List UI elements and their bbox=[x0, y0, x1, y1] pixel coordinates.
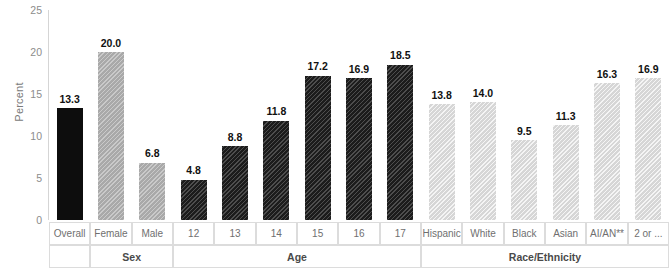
category-cell-asian: Asian bbox=[545, 222, 586, 245]
bar-slot: 16.3 bbox=[586, 10, 627, 220]
bar-value-label: 13.8 bbox=[431, 90, 451, 101]
bar-hispanic[interactable] bbox=[429, 104, 455, 220]
bar-slot: 14.0 bbox=[462, 10, 503, 220]
category-cell-12: 12 bbox=[173, 222, 214, 245]
bar-black[interactable] bbox=[511, 140, 537, 220]
bar-2-or-[interactable] bbox=[635, 78, 661, 220]
plot-area: 13.320.06.84.88.811.817.216.918.513.814.… bbox=[49, 10, 669, 220]
bar-asian[interactable] bbox=[553, 125, 579, 220]
bar-16[interactable] bbox=[346, 78, 372, 220]
bar-value-label: 8.8 bbox=[228, 132, 243, 143]
bar-value-label: 16.9 bbox=[638, 64, 658, 75]
bar-slot: 18.5 bbox=[380, 10, 421, 220]
y-axis-tick-10: 10 bbox=[12, 131, 42, 142]
y-axis-tick-25: 25 bbox=[12, 5, 42, 16]
category-cell-white: White bbox=[462, 222, 503, 245]
bar-value-label: 11.3 bbox=[556, 111, 576, 122]
bar-value-label: 17.2 bbox=[307, 61, 327, 72]
bar-value-label: 4.8 bbox=[186, 165, 201, 176]
bar-17[interactable] bbox=[387, 65, 413, 220]
bar-value-label: 14.0 bbox=[473, 88, 493, 99]
bar-14[interactable] bbox=[263, 121, 289, 220]
bar-value-label: 16.9 bbox=[349, 64, 369, 75]
bar-chart: Percent 0510152025 13.320.06.84.88.811.8… bbox=[0, 0, 669, 274]
bar-slot: 16.9 bbox=[338, 10, 379, 220]
bar-slot: 17.2 bbox=[297, 10, 338, 220]
category-cell-13: 13 bbox=[214, 222, 255, 245]
category-label-table: OverallFemaleMale121314151617HispanicWhi… bbox=[49, 222, 669, 270]
category-cell-hispanic: Hispanic bbox=[421, 222, 462, 245]
bar-value-label: 13.3 bbox=[59, 94, 79, 105]
category-cell-17: 17 bbox=[380, 222, 421, 245]
group-header-sex: Sex bbox=[90, 245, 173, 268]
bar-slot: 4.8 bbox=[173, 10, 214, 220]
y-axis-tick-15: 15 bbox=[12, 89, 42, 100]
bar-slot: 13.3 bbox=[49, 10, 90, 220]
category-cell-2-or-: 2 or ... bbox=[628, 222, 669, 245]
bar-slot: 20.0 bbox=[90, 10, 131, 220]
bar-value-label: 16.3 bbox=[597, 69, 617, 80]
bar-slot: 6.8 bbox=[132, 10, 173, 220]
bar-male[interactable] bbox=[139, 163, 165, 220]
bar-value-label: 9.5 bbox=[517, 126, 532, 137]
y-axis-tick-20: 20 bbox=[12, 47, 42, 58]
category-cell-male: Male bbox=[132, 222, 173, 245]
category-cell-female: Female bbox=[90, 222, 131, 245]
category-cell-15: 15 bbox=[297, 222, 338, 245]
bar-ai-an-[interactable] bbox=[594, 83, 620, 220]
category-cell-14: 14 bbox=[256, 222, 297, 245]
group-header-race-ethnicity: Race/Ethnicity bbox=[421, 245, 669, 268]
bar-value-label: 11.8 bbox=[266, 106, 286, 117]
bar-value-label: 18.5 bbox=[390, 50, 410, 61]
bar-female[interactable] bbox=[98, 52, 124, 220]
bar-slot: 9.5 bbox=[504, 10, 545, 220]
group-header-age: Age bbox=[173, 245, 421, 268]
bar-white[interactable] bbox=[470, 102, 496, 220]
y-axis-tick-5: 5 bbox=[12, 173, 42, 184]
bar-12[interactable] bbox=[181, 180, 207, 220]
category-cell-ai-an-: AI/AN** bbox=[586, 222, 627, 245]
bar-slot: 13.8 bbox=[421, 10, 462, 220]
bar-15[interactable] bbox=[305, 76, 331, 220]
category-cell-overall: Overall bbox=[49, 222, 90, 245]
category-cell-16: 16 bbox=[338, 222, 379, 245]
bar-13[interactable] bbox=[222, 146, 248, 220]
bar-overall[interactable] bbox=[57, 108, 83, 220]
bar-value-label: 20.0 bbox=[101, 38, 121, 49]
bar-slot: 16.9 bbox=[628, 10, 669, 220]
group-header-blank bbox=[49, 245, 90, 268]
category-cell-black: Black bbox=[504, 222, 545, 245]
bar-slot: 11.3 bbox=[545, 10, 586, 220]
bar-slot: 8.8 bbox=[214, 10, 255, 220]
y-axis-tick-0: 0 bbox=[12, 215, 42, 226]
bar-slot: 11.8 bbox=[256, 10, 297, 220]
bar-value-label: 6.8 bbox=[145, 148, 160, 159]
